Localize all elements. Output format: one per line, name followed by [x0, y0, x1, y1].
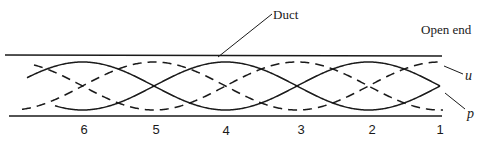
wave-curves: [22, 62, 443, 110]
position-labels: 6 5 4 3 2 1: [80, 122, 443, 138]
duct-leader-line: [218, 14, 272, 57]
standing-wave-diagram: Duct Open end u p 6 5 4 3 2 1: [0, 0, 478, 148]
p-callout: p: [445, 93, 474, 121]
velocity-curve-upper: [22, 62, 443, 110]
duct-label: Duct: [273, 7, 299, 22]
position-label-3: 3: [297, 122, 304, 137]
duct-top-wall: [5, 55, 442, 56]
position-label-5: 5: [152, 122, 159, 137]
pressure-curve-upper: [27, 62, 440, 110]
position-label-2: 2: [368, 122, 375, 137]
open-end-label: Open end: [421, 22, 472, 37]
u-callout: u: [444, 66, 472, 83]
u-leader-line: [444, 66, 463, 74]
position-label-6: 6: [80, 122, 87, 137]
u-label: u: [465, 68, 472, 83]
position-label-1: 1: [436, 122, 443, 137]
velocity-curve-lower: [34, 62, 443, 110]
p-leader-line: [445, 93, 465, 109]
pressure-curve-lower: [55, 62, 440, 110]
position-label-4: 4: [222, 123, 229, 138]
p-label: p: [466, 106, 474, 121]
duct-callout: Duct: [218, 7, 299, 57]
